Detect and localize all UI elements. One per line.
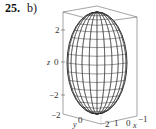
z-axis-label: z (46, 58, 51, 67)
x-tick-label-0: 0 (126, 118, 131, 128)
ellipsoid-surface (67, 12, 127, 114)
z-tick-label-neg2: −2 (49, 90, 59, 100)
x-tick-label-1: 1 (114, 118, 119, 128)
x-axis-label: x (132, 121, 137, 129)
x-tick-label-neg1: −1 (138, 114, 148, 124)
y-tick-label-2: 2 (105, 119, 110, 129)
y-axis-label: y (72, 120, 77, 129)
z-tick-label-2: 2 (55, 25, 60, 35)
y-tick-label-neg2: −2 (51, 110, 61, 120)
z-tick-label-0: 0 (54, 57, 59, 67)
ellipsoid-plot: 2 z 0 −2 −2 y 0 2 1 0 x −1 (0, 0, 156, 129)
y-tick-label-0: 0 (78, 115, 83, 125)
